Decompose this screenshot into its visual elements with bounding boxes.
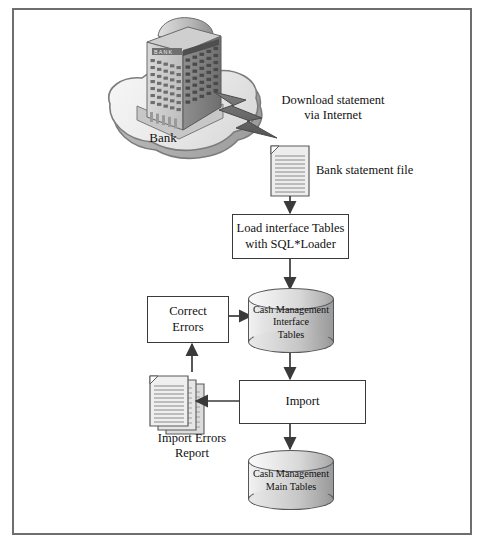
- main-tables-label: Cash Management Main Tables: [248, 468, 334, 493]
- load-interface-tables-box[interactable]: Load interface Tables with SQL*Loader: [232, 214, 349, 259]
- cash-management-interface-tables-cylinder[interactable]: Cash Management Interface Tables: [248, 288, 334, 353]
- diagram-root: BANK: [0, 0, 484, 548]
- bank-statement-file-label: Bank statement file: [316, 163, 446, 178]
- bank-building-icon: BANK: [137, 18, 223, 139]
- interface-tables-label: Cash Management Interface Tables: [248, 303, 334, 341]
- download-arrow-label: Download statement via Internet: [258, 93, 408, 124]
- import-box[interactable]: Import: [239, 380, 366, 424]
- bank-statement-file-icon: [271, 146, 309, 196]
- import-errors-report-icon: [150, 376, 204, 434]
- import-errors-report-label: Import Errors Report: [133, 431, 251, 462]
- svg-text:BANK: BANK: [154, 49, 173, 55]
- correct-errors-box[interactable]: Correct Errors: [147, 296, 229, 343]
- bank-label: Bank: [118, 130, 208, 146]
- diagram-vector-layer: BANK: [0, 0, 484, 548]
- cash-management-main-tables-cylinder[interactable]: Cash Management Main Tables: [248, 450, 334, 510]
